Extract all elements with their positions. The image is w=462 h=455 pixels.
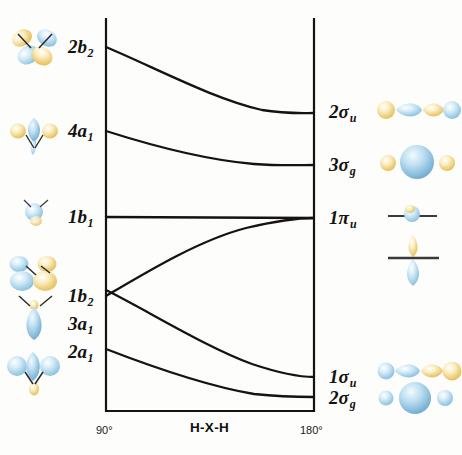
left-orbital-icons [7,26,60,396]
orbital-icon-2b2 [9,26,60,69]
orbital-icon-1b1 [24,200,48,226]
right-orbital-icons [377,101,462,414]
orbital-label-4a1: 4a1 [68,120,94,145]
orbital-icon-1pi-u-b [388,235,439,286]
orbital-label-2b2: 2b2 [68,36,94,61]
orbital-label-3sigma-g: 3σg [329,154,356,179]
orbital-label-1b2: 1b2 [68,285,94,310]
x-axis-tick-right: 180° [300,424,323,436]
orbital-label-2sigma-u: 2σu [329,101,356,126]
orbital-icon-1pi-u-a [388,205,437,222]
orbital-icon-2sigma-g [379,382,454,414]
x-axis-tick-left: 90° [96,424,113,436]
curve-4a1-3sigmag [106,131,314,165]
orbital-icon-3sigma-g [380,145,455,179]
axis-frame [105,18,315,412]
orbital-icon-1b2 [10,256,58,291]
orbital-label-1b1: 1b1 [68,206,94,231]
orbital-icon-2sigma-u [377,101,461,119]
orbital-label-2a1: 2a1 [68,341,94,366]
curve-2b2-2sigmau [106,47,314,113]
orbital-icon-1sigma-u [378,362,462,381]
orbital-label-1pi-u: 1πu [329,207,357,232]
walsh-diagram-figure: 2b2 4a1 1b1 1b2 3a1 2a1 2σu 3σg 1πu 1σu … [0,0,462,455]
orbital-icon-3a1 [19,296,52,340]
curve-1b1-1piu [106,217,314,218]
orbital-icon-4a1 [10,118,58,155]
orbital-label-3a1: 3a1 [68,313,94,338]
correlation-curves [106,47,314,397]
curve-3a1-1sigmau [106,290,314,377]
orbital-label-2sigma-g: 2σg [329,387,356,412]
curve-1b2-1piu [106,218,314,296]
orbital-icon-2a1 [7,352,60,396]
x-axis-title: H-X-H [190,420,229,435]
